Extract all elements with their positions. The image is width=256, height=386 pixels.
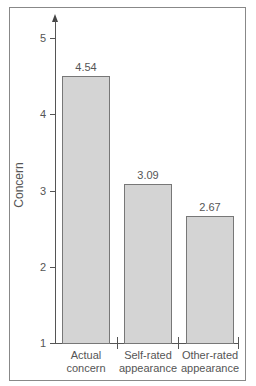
- category-label-line: Actual: [51, 349, 121, 362]
- y-tick-label-1: 1: [34, 337, 46, 349]
- category-label-self-rated: Self-rated appearance: [113, 349, 183, 375]
- x-tick-3: [238, 337, 239, 349]
- y-tick-3: [50, 191, 55, 192]
- y-tick-4: [50, 114, 55, 115]
- y-axis-title: Concern: [12, 162, 26, 207]
- category-label-line: appearance: [175, 362, 245, 375]
- y-tick-5: [50, 38, 55, 39]
- y-tick-2: [50, 267, 55, 268]
- bar-other-rated-appearance: [186, 216, 234, 344]
- value-label-other-rated: 2.67: [180, 201, 240, 213]
- category-label-line: Other-rated: [175, 349, 245, 362]
- x-tick-2: [178, 337, 179, 349]
- y-tick-1: [50, 343, 55, 344]
- category-label-actual-concern: Actual concern: [51, 349, 121, 375]
- bar-actual-concern: [62, 76, 110, 344]
- category-label-line: Self-rated: [113, 349, 183, 362]
- y-tick-label-2: 2: [34, 261, 46, 273]
- value-label-self-rated: 3.09: [118, 169, 178, 181]
- y-tick-label-5: 5: [34, 32, 46, 44]
- x-tick-1: [117, 337, 118, 349]
- category-label-other-rated: Other-rated appearance: [175, 349, 245, 375]
- y-tick-label-4: 4: [34, 108, 46, 120]
- value-label-actual-concern: 4.54: [56, 61, 116, 73]
- category-label-line: concern: [51, 362, 121, 375]
- category-label-line: appearance: [113, 362, 183, 375]
- bar-self-rated-appearance: [124, 184, 172, 344]
- y-tick-label-3: 3: [34, 185, 46, 197]
